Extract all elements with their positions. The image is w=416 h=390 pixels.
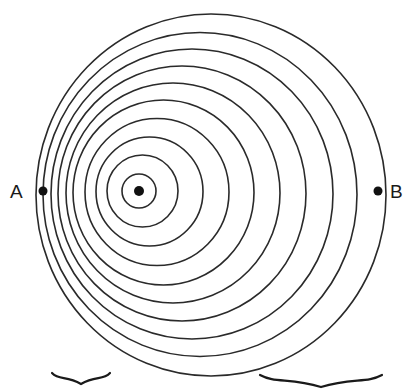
short-wavelength-brace <box>52 373 110 384</box>
wavefront-ring-3 <box>96 137 203 246</box>
doppler-wavefront-diagram <box>0 0 416 390</box>
wavefront-ring-8 <box>51 49 333 339</box>
point-label-a: A <box>10 181 23 203</box>
point-b-dot <box>374 187 383 196</box>
source-point <box>134 186 144 196</box>
long-wavelength-brace <box>260 375 382 387</box>
observer-points <box>39 187 383 196</box>
wavefront-ring-5 <box>73 100 254 285</box>
point-a-dot <box>39 187 48 196</box>
point-label-b: B <box>390 181 403 203</box>
wavefront-ring-9 <box>43 33 357 357</box>
wavefront-ring-6 <box>66 83 280 303</box>
wavefront-rings <box>36 14 386 376</box>
